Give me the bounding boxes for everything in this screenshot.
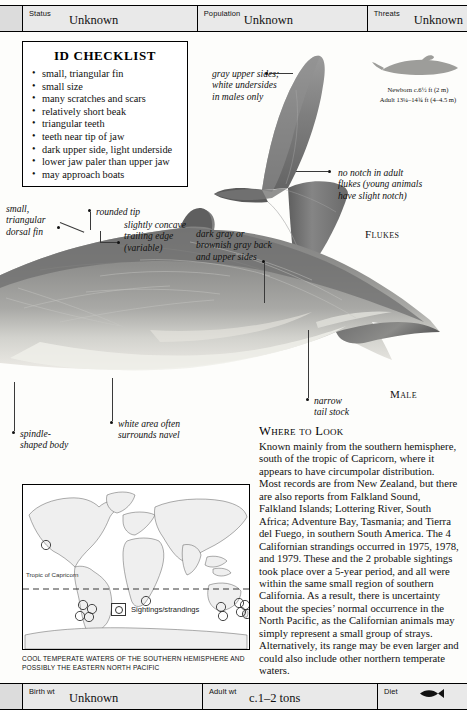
adult-weight-field: Adult wt c.1–2 tons bbox=[203, 684, 378, 709]
checklist-item: relatively short beak bbox=[31, 106, 179, 119]
annotation-dark-gray-back: dark gray or brownish gray back and uppe… bbox=[196, 228, 302, 262]
legend-circle-icon bbox=[111, 603, 126, 616]
bottom-data-bar: Birth wt Unknown Adult wt c.1–2 tons Die… bbox=[0, 683, 467, 710]
annotation-dorsal-fin: small, triangular dorsal fin bbox=[6, 203, 86, 237]
map-legend: Sightings/strandings bbox=[111, 603, 199, 616]
legend-label: Sightings/strandings bbox=[131, 605, 199, 614]
population-field: Population Unknown bbox=[198, 6, 368, 31]
status-value: Unknown bbox=[69, 14, 118, 30]
leader-line bbox=[112, 378, 113, 421]
checklist-item: many scratches and scars bbox=[31, 93, 179, 106]
top-status-bar: Status Unknown Population Unknown Threat… bbox=[0, 5, 467, 32]
status-label: Status bbox=[29, 9, 51, 18]
population-value: Unknown bbox=[244, 14, 293, 30]
flukes-caption: Flukes bbox=[365, 228, 399, 240]
distribution-map: Tropic of Capricorn Sightings/strandings bbox=[22, 484, 250, 650]
size-comparison-block: Newborn c.6½ ft (2 m) Adult 13¼–14¾ ft (… bbox=[372, 54, 464, 105]
threats-label: Threats bbox=[374, 9, 400, 18]
birth-weight-value: Unknown bbox=[69, 692, 118, 708]
leader-line bbox=[269, 73, 293, 74]
checklist-item: dark upper side, light underside bbox=[31, 144, 179, 157]
threats-value: Unknown bbox=[414, 14, 463, 30]
population-label: Population bbox=[204, 9, 240, 18]
leader-line bbox=[14, 382, 15, 431]
checklist-item: triangular teeth bbox=[31, 118, 179, 131]
leader-line bbox=[296, 171, 328, 172]
annotation-no-notch: no notch in adult flukes (young animals … bbox=[338, 167, 464, 201]
leader-line bbox=[100, 231, 101, 243]
diet-label: Diet bbox=[384, 687, 398, 696]
annotation-spindle-body: spindle- shaped body bbox=[20, 428, 86, 451]
leader-line bbox=[264, 263, 265, 303]
birth-weight-label: Birth wt bbox=[29, 687, 55, 696]
adult-weight-value: c.1–2 tons bbox=[249, 692, 300, 708]
tropic-of-capricorn-label: Tropic of Capricorn bbox=[26, 571, 78, 578]
dolphin-silhouette-icon bbox=[372, 54, 464, 80]
where-to-look-section: Where to Look Known mainly from the sout… bbox=[259, 424, 459, 677]
left-gutter bbox=[0, 6, 23, 31]
adult-size: Adult 13¼–14¾ ft (4–4.5 m) bbox=[372, 96, 464, 104]
annotation-rounded-tip: rounded tip bbox=[96, 206, 140, 217]
male-caption: Male bbox=[390, 388, 417, 400]
checklist-items: small, triangular fin small size many sc… bbox=[31, 68, 179, 181]
threats-field: Threats Unknown bbox=[368, 6, 467, 31]
leader-line bbox=[90, 212, 91, 230]
map-caption: COOL TEMPERATE WATERS OF THE SOUTHERN HE… bbox=[22, 655, 262, 672]
id-checklist-box: ID CHECKLIST small, triangular fin small… bbox=[22, 41, 188, 187]
checklist-item: small size bbox=[31, 81, 179, 94]
checklist-item: small, triangular fin bbox=[31, 68, 179, 81]
newborn-size: Newborn c.6½ ft (2 m) bbox=[372, 86, 464, 94]
annotation-narrow-tail-stock: narrow tail stock bbox=[314, 395, 384, 418]
adult-weight-label: Adult wt bbox=[209, 687, 236, 696]
checklist-title: ID CHECKLIST bbox=[31, 48, 179, 64]
fish-icon bbox=[418, 685, 444, 707]
leader-line bbox=[308, 330, 309, 398]
annotation-white-area-navel: white area often surrounds navel bbox=[118, 418, 228, 441]
birth-weight-field: Birth wt Unknown bbox=[23, 684, 203, 709]
leader-line bbox=[100, 242, 117, 243]
left-gutter bbox=[0, 684, 23, 709]
checklist-item: may approach boats bbox=[31, 169, 179, 182]
world-map-svg bbox=[23, 485, 249, 649]
checklist-item: teeth near tip of jaw bbox=[31, 131, 179, 144]
status-field: Status Unknown bbox=[23, 6, 198, 31]
where-to-look-heading: Where to Look bbox=[259, 424, 459, 439]
checklist-item: lower jaw paler than upper jaw bbox=[31, 156, 179, 169]
diet-field: Diet bbox=[378, 684, 467, 709]
where-to-look-body: Known mainly from the southern hemispher… bbox=[259, 440, 459, 677]
